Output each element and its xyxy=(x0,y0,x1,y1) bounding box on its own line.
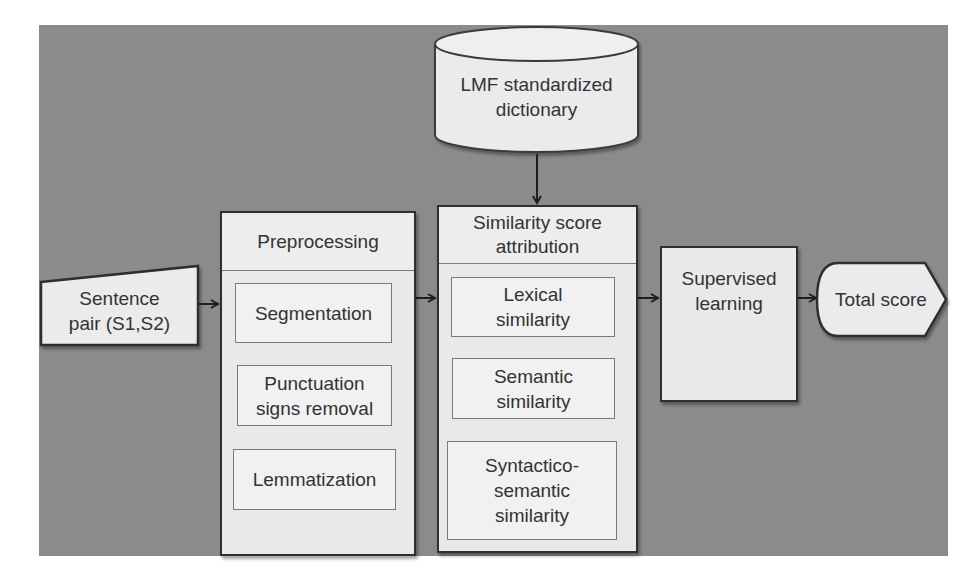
measure-lexical: Lexical similarity xyxy=(451,277,615,337)
sentence-pair-label-1: Sentence xyxy=(79,286,159,311)
similarity-title-2: attribution xyxy=(496,235,579,259)
step-segmentation: Segmentation xyxy=(235,283,392,343)
step-lemmatization: Lemmatization xyxy=(233,449,396,510)
supervised-learning-node: Supervised learning xyxy=(660,246,798,402)
step-punctuation-label-2: signs removal xyxy=(256,396,373,421)
supervised-learning-label-1: Supervised xyxy=(681,266,776,291)
preprocessing-title: Preprocessing xyxy=(257,229,378,254)
measure-lexical-label-1: Lexical xyxy=(503,282,562,307)
measure-syntactico-label-3: similarity xyxy=(495,503,569,528)
dictionary-label-1: LMF standardized xyxy=(460,72,612,97)
measure-syntactico-label-2: semantic xyxy=(494,478,570,503)
sentence-pair-node: Sentence pair (S1,S2) xyxy=(41,276,198,345)
measure-lexical-label-2: similarity xyxy=(496,307,570,332)
step-punctuation-removal: Punctuation signs removal xyxy=(237,365,392,426)
measure-semantic-label-2: similarity xyxy=(497,389,571,414)
similarity-title-1: Similarity score xyxy=(473,211,602,235)
step-punctuation-label-1: Punctuation xyxy=(264,371,364,396)
similarity-header: Similarity score attribution xyxy=(439,207,636,264)
step-lemmatization-label: Lemmatization xyxy=(253,467,377,492)
measure-semantic: Semantic similarity xyxy=(452,358,615,419)
total-score-node: Total score xyxy=(820,263,942,336)
sentence-pair-label-2: pair (S1,S2) xyxy=(69,311,170,336)
dictionary-node: LMF standardized dictionary xyxy=(435,64,638,130)
step-segmentation-label: Segmentation xyxy=(255,301,372,326)
dictionary-label-2: dictionary xyxy=(496,97,577,122)
total-score-label: Total score xyxy=(835,287,927,312)
measure-syntactico-label-1: Syntactico- xyxy=(485,453,579,478)
supervised-learning-label-2: learning xyxy=(695,291,763,316)
measure-semantic-label-1: Semantic xyxy=(494,364,573,389)
measure-syntactico-semantic: Syntactico- semantic similarity xyxy=(447,441,617,540)
preprocessing-header: Preprocessing xyxy=(222,213,414,271)
